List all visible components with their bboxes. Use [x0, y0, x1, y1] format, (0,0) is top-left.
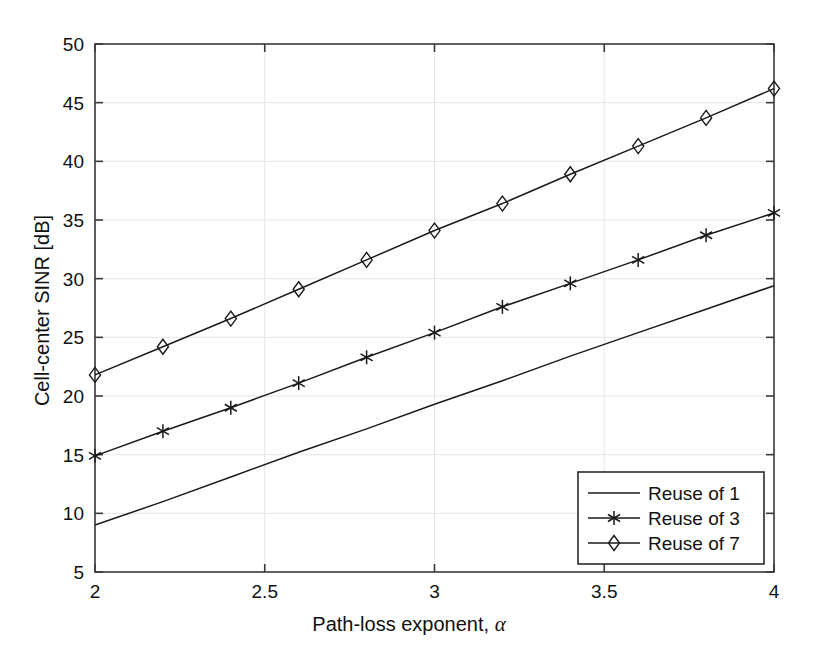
x-axis-label: Path-loss exponent, α [0, 612, 818, 637]
y-tick-label: 10 [63, 503, 84, 524]
x-tick-label: 2 [90, 581, 101, 602]
y-tick-label: 30 [63, 269, 84, 290]
chart-figure: 510152025303540455022.533.54 Reuse of 1R… [0, 0, 818, 667]
y-tick-label: 40 [63, 151, 84, 172]
chart-canvas: 510152025303540455022.533.54 Reuse of 1R… [0, 0, 818, 667]
legend-label: Reuse of 3 [648, 508, 740, 529]
y-tick-label: 35 [63, 210, 84, 231]
y-tick-label: 15 [63, 445, 84, 466]
y-tick-label: 50 [63, 34, 84, 55]
x-axis-label-symbol: α [495, 612, 506, 636]
chart-legend[interactable]: Reuse of 1Reuse of 3Reuse of 7 [578, 472, 764, 564]
legend-label: Reuse of 7 [648, 533, 740, 554]
y-tick-label: 5 [73, 562, 84, 583]
x-tick-label: 3 [429, 581, 440, 602]
y-tick-label: 45 [63, 93, 84, 114]
y-axis-label: Cell-center SINR [dB] [31, 101, 54, 521]
x-axis-label-text: Path-loss exponent, [312, 613, 494, 635]
x-tick-label: 2.5 [252, 581, 278, 602]
x-tick-label: 4 [769, 581, 780, 602]
x-tick-label: 3.5 [591, 581, 617, 602]
y-tick-label: 25 [63, 327, 84, 348]
legend-label: Reuse of 1 [648, 483, 740, 504]
figure-background [0, 0, 818, 667]
y-tick-label: 20 [63, 386, 84, 407]
